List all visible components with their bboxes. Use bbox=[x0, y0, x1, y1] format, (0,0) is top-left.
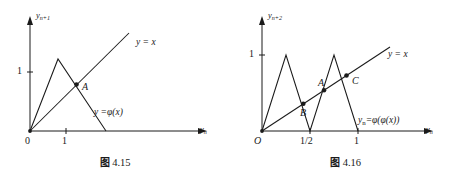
x-tick-label-1: 1 bbox=[62, 136, 67, 146]
caption-prefix: 图 bbox=[330, 157, 340, 168]
point-A-marker bbox=[74, 82, 79, 87]
caption-prefix: 图 bbox=[100, 157, 110, 168]
origin-label: O bbox=[254, 136, 261, 146]
x-axis-label: yn bbox=[426, 125, 433, 135]
y-axis-label: yn+2 bbox=[268, 11, 282, 21]
point-label-A: A bbox=[318, 78, 324, 88]
caption-number: 4.16 bbox=[343, 157, 361, 168]
figure-4-16-plot bbox=[230, 0, 461, 179]
point-label-A: A bbox=[82, 82, 88, 92]
phi-curve-label: y =φ(x) bbox=[94, 108, 123, 118]
y-axis-arrow-icon bbox=[27, 16, 33, 25]
origin-label: 0 bbox=[25, 136, 30, 146]
identity-line-label: y = x bbox=[136, 38, 156, 48]
point-B-marker bbox=[301, 102, 306, 107]
x-axis-label-subscript: n bbox=[204, 129, 207, 135]
phi-curve-label-lhs: y = bbox=[94, 107, 107, 117]
phi-curve-label-rhs: φ(x) bbox=[107, 107, 123, 117]
identity-line-label: y = x bbox=[388, 50, 408, 60]
point-label-B: B bbox=[300, 108, 306, 118]
x-tick-label-1: 1 bbox=[354, 136, 359, 146]
y-axis-arrow-icon bbox=[259, 16, 265, 25]
point-label-C: C bbox=[352, 76, 359, 86]
figure-caption: 图 4.15 bbox=[0, 158, 230, 169]
figure-4-15-plot bbox=[0, 0, 230, 179]
figure-4-16: yn+2 yn 1 O 1/2 1 B A C y = x yn=φ(φ(x))… bbox=[230, 0, 461, 179]
origin-marker bbox=[260, 129, 264, 133]
y-axis-label-subscript: n+1 bbox=[40, 15, 50, 21]
point-C-marker bbox=[344, 73, 349, 78]
figure-caption: 图 4.16 bbox=[230, 158, 461, 169]
point-A-marker bbox=[322, 88, 327, 93]
phi-phi-double-tent-curve bbox=[262, 55, 358, 131]
x-axis-label: yn bbox=[200, 125, 207, 135]
y-axis-label: yn+1 bbox=[36, 11, 50, 21]
origin-marker bbox=[28, 129, 32, 133]
phi-phi-curve-label-rhs: =φ(φ(x)) bbox=[366, 115, 400, 125]
phi-phi-curve-label: yn=φ(φ(x)) bbox=[358, 116, 399, 127]
figure-4-15: yn+1 yn 1 0 1 A y = x y =φ(x) 图 4.15 bbox=[0, 0, 230, 179]
figure-page: yn+1 yn 1 0 1 A y = x y =φ(x) 图 4.15 bbox=[0, 0, 461, 179]
caption-number: 4.15 bbox=[112, 157, 130, 168]
y-axis-label-subscript: n+2 bbox=[272, 15, 282, 21]
y-tick-label-1: 1 bbox=[249, 49, 254, 59]
x-tick-label-half: 1/2 bbox=[300, 136, 313, 146]
y-tick-label-1: 1 bbox=[17, 66, 22, 76]
x-axis-label-subscript: n bbox=[430, 129, 433, 135]
